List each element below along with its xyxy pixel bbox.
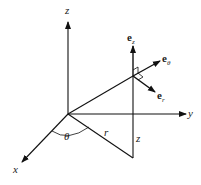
diagram-lines (0, 0, 201, 185)
x-axis (22, 114, 68, 162)
ez-label: ez (127, 32, 135, 46)
r-label: r (104, 127, 108, 138)
right-angle-mark-2 (138, 73, 143, 80)
cylindrical-coordinates-diagram: z y x θ r z ez eθ er (0, 0, 201, 185)
right-angle-mark-1 (133, 67, 138, 73)
z-axis-label: z (65, 5, 69, 16)
y-axis-label: y (188, 108, 193, 119)
theta-arc (52, 127, 89, 136)
er-vector (133, 76, 155, 92)
r-line (68, 114, 133, 158)
theta-label: θ (64, 131, 69, 142)
etheta-vector (133, 61, 160, 76)
etheta-label: eθ (162, 53, 170, 67)
er-label: er (157, 90, 165, 104)
x-axis-label: x (13, 164, 18, 175)
position-line (68, 76, 133, 114)
height-label: z (136, 133, 140, 144)
